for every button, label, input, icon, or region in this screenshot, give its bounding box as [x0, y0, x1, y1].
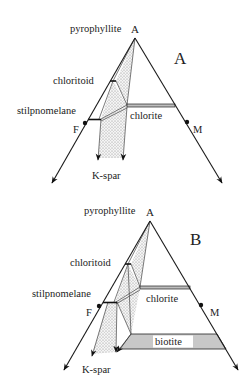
label-kspar: K-spar	[82, 364, 111, 375]
label-stilpnomelane: stilpnomelane	[32, 288, 91, 299]
panel-label: B	[190, 230, 201, 249]
label-apex-a: A	[131, 23, 139, 35]
chlorite-bar	[127, 104, 175, 107]
diagram-b: pyrophyllite A B chloritoid stilpnomelan…	[32, 205, 238, 375]
label-biotite: biotite	[155, 336, 182, 347]
f-vertex-dot	[97, 304, 101, 308]
diagram-a: pyrophyllite A A chloritoid stilpnomelan…	[17, 23, 222, 183]
label-f: F	[73, 124, 79, 135]
label-apex-a: A	[146, 206, 154, 218]
label-chlorite: chlorite	[130, 110, 162, 121]
label-pyrophyllite: pyrophyllite	[84, 205, 136, 216]
chlorite-bar	[140, 286, 190, 289]
afm-diagrams: pyrophyllite A A chloritoid stilpnomelan…	[0, 0, 247, 391]
label-chloritoid: chloritoid	[53, 75, 95, 86]
label-stilpnomelane: stilpnomelane	[17, 105, 76, 116]
panel-label: A	[174, 49, 187, 68]
label-f: F	[86, 307, 92, 318]
label-kspar: K-spar	[92, 170, 121, 181]
label-m: M	[193, 124, 203, 135]
label-chlorite: chlorite	[146, 293, 178, 304]
label-chloritoid: chloritoid	[70, 257, 112, 268]
stipple-field-stilp-kspar	[92, 302, 117, 354]
m-vertex-dot	[185, 120, 189, 124]
m-vertex-dot	[199, 303, 203, 307]
label-pyrophyllite: pyrophyllite	[70, 23, 122, 34]
label-m: M	[210, 307, 220, 318]
f-vertex-dot	[83, 121, 87, 125]
